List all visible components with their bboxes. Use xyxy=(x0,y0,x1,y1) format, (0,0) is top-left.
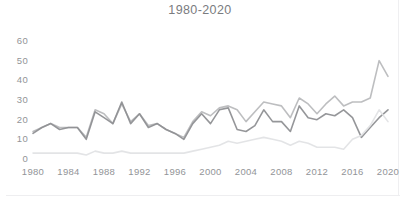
line-chart-svg xyxy=(0,24,404,174)
x-tick-label: 1984 xyxy=(57,166,79,177)
y-tick-label: 0 xyxy=(2,153,28,164)
line-series-1 xyxy=(33,61,388,138)
y-tick-label: 60 xyxy=(2,35,28,46)
x-tick-label: 1988 xyxy=(93,166,115,177)
x-tick-label: 1992 xyxy=(128,166,150,177)
y-tick-label: 50 xyxy=(2,55,28,66)
y-tick-label: 20 xyxy=(2,114,28,125)
chart-screenshot: 1980-2020 198019841988199219962000200420… xyxy=(0,0,414,206)
y-tick-label: 30 xyxy=(2,94,28,105)
x-tick-label: 2020 xyxy=(377,166,399,177)
x-tick-label: 2012 xyxy=(306,166,328,177)
x-tick-label: 2016 xyxy=(341,166,363,177)
x-axis: 1980198419881992199620002004200820122016… xyxy=(0,166,404,184)
card-edge-bottom xyxy=(6,195,400,196)
x-tick-label: 1980 xyxy=(22,166,44,177)
line-series-2 xyxy=(33,102,388,139)
y-tick-label: 40 xyxy=(2,74,28,85)
chart-title: 1980-2020 xyxy=(0,3,400,17)
line-series-3 xyxy=(33,110,388,155)
x-tick-label: 2004 xyxy=(235,166,257,177)
x-tick-label: 2000 xyxy=(199,166,221,177)
y-tick-label: 10 xyxy=(2,133,28,144)
x-tick-label: 2008 xyxy=(270,166,292,177)
x-tick-label: 1996 xyxy=(164,166,186,177)
plot-area xyxy=(0,24,404,174)
